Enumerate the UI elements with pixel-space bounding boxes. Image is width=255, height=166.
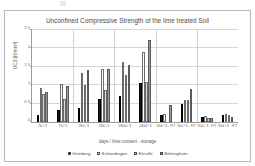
bar [190, 89, 193, 122]
chart-frame: Unconfined Compressive Strength of the l… [4, 10, 251, 162]
legend-item[interactable]: Ehrville [134, 151, 153, 156]
legend-swatch [160, 152, 163, 155]
bar [231, 117, 234, 122]
bar-group: 180d / 3 [114, 30, 135, 122]
x-axis-label: days / lime content - storage [5, 139, 250, 144]
bar [45, 92, 48, 122]
x-tick-label: 90d / 6 - F/T [218, 124, 237, 128]
legend-item[interactable]: Böhringhem [160, 151, 188, 156]
x-tick-label: 56d / 6 - F/T [177, 124, 196, 128]
x-tick-label: 28d / 6 [99, 124, 110, 128]
bar-group: 90d / 3 - F/T [197, 30, 218, 122]
legend-label: Grünberg [72, 151, 90, 156]
bar [87, 70, 90, 122]
x-tick-label: 7d / 6 [59, 124, 68, 128]
legend-swatch [68, 152, 71, 155]
bar-group: 28d / 6 [94, 30, 115, 122]
bar [169, 105, 172, 122]
bar [107, 69, 110, 122]
plot-area: 00.511.522.5 7d / 37d / 628d / 328d / 61… [31, 30, 238, 123]
bar-group: 180d / 6 [135, 30, 156, 122]
legend-label: Ehrville [139, 151, 153, 156]
chart-title: Unconfined Compressive Strength of the l… [5, 17, 250, 24]
bar [128, 65, 131, 122]
bar-group: 28d / 3 [73, 30, 94, 122]
bar [163, 114, 166, 122]
chart-page: Unconfined Compressive Strength of the l… [0, 0, 255, 166]
x-tick-label: 7d / 3 [38, 124, 47, 128]
legend-item[interactable]: Grünberg [68, 151, 91, 156]
legend-swatch [97, 152, 100, 155]
legend-label: Echterdingen [102, 151, 127, 156]
top-band [0, 0, 255, 9]
bar [148, 40, 151, 122]
legend-item[interactable]: Echterdingen [97, 151, 127, 156]
x-tick-label: 180d / 6 [139, 124, 152, 128]
bar-group: 7d / 3 [32, 30, 53, 122]
bar [66, 86, 69, 122]
x-tick-label: 90d / 3 - F/T [198, 124, 217, 128]
bar [210, 118, 213, 122]
top-band-mark [60, 1, 66, 6]
x-tick-label: 28d / 3 [78, 124, 89, 128]
chart-legend: GrünbergEchterdingenEhrvilleBöhringhem [5, 151, 250, 156]
bar-group: 56d / 6 - F/T [176, 30, 197, 122]
legend-swatch [134, 152, 137, 155]
bar-group: 56d / 3 - F/T [156, 30, 177, 122]
legend-label: Böhringhem [164, 151, 187, 156]
x-tick-label: 56d / 3 - F/T [156, 124, 175, 128]
bar-groups: 7d / 37d / 628d / 328d / 6180d / 3180d /… [32, 30, 238, 122]
bar-group: 7d / 6 [53, 30, 74, 122]
y-axis-label: UCS [N/mm²] [13, 42, 18, 69]
x-tick-label: 180d / 3 [118, 124, 131, 128]
bar-group: 90d / 6 - F/T [217, 30, 238, 122]
